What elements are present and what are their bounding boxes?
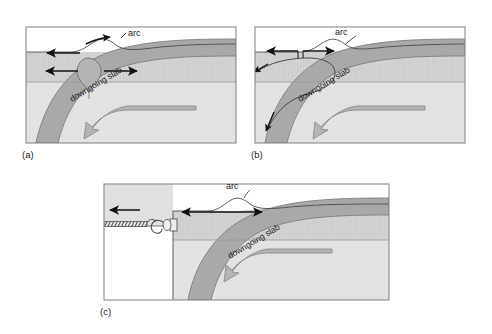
subduction-arc-mechanisms-figure: arc downgoing slab (a) [0, 0, 492, 334]
panel-b: arc downgoing slab (b) [251, 27, 465, 160]
panel-a-label: (a) [22, 149, 34, 160]
panel-b-arc-label: arc [335, 27, 348, 37]
panel-c-eyelet-ring [163, 220, 171, 231]
panel-c-rope [104, 222, 147, 227]
panel-b-label: (b) [251, 149, 263, 160]
panel-c-arc-label: arc [226, 181, 239, 191]
panel-c-label: (c) [100, 306, 111, 317]
panel-c-left-upper-shade [104, 184, 173, 226]
panel-a: arc downgoing slab (a) [22, 27, 236, 160]
panel-a-arc-label: arc [128, 28, 141, 38]
panel-c: arc downgoing slab (c) [100, 181, 389, 317]
